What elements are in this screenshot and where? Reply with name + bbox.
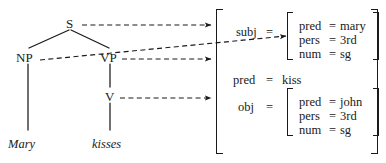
equals-pred: = [266,74,273,87]
subj-pred-value: mary [340,19,366,33]
obj-value-matrix: pred=john pers=3rd num=sg [287,88,379,136]
subj-bracket-right [373,12,379,60]
value-pred-kiss: kiss [282,74,301,87]
subj-row-num: num=sg [299,48,351,61]
subj-row-pers: pers=3rd [299,34,357,47]
attribute-pred: pred [233,74,255,87]
subj-pred-key: pred [299,20,329,33]
f-structure: subj = pred=mary pers=3rd num=sg pred = … [216,9,380,154]
obj-pred-key: pred [299,96,329,109]
equals-obj: = [266,101,273,114]
obj-row-num: num=sg [299,124,351,137]
tree-edges [28,30,110,130]
outer-bracket-left [216,9,223,154]
subj-num-equals: = [329,48,340,61]
equals-subj: = [266,26,273,39]
tree-terminal-kisses: kisses [92,138,121,151]
edge-s-np [29,30,69,48]
subj-value-matrix: pred=mary pers=3rd num=sg [287,12,379,60]
obj-pers-key: pers [299,110,329,123]
obj-num-equals: = [329,124,340,137]
subj-pers-equals: = [329,34,340,47]
obj-bracket-right [373,88,379,136]
subj-pred-equals: = [329,20,340,33]
obj-pers-equals: = [329,110,340,123]
obj-pred-value: john [340,95,362,109]
subj-pers-key: pers [299,34,329,47]
tree-node-vp: VP [100,51,117,64]
obj-row-pers: pers=3rd [299,110,357,123]
subj-num-value: sg [340,47,351,61]
tree-terminal-mary: Mary [8,138,35,151]
subj-pers-value: 3rd [340,33,357,47]
obj-pred-equals: = [329,96,340,109]
obj-bracket-left [287,88,293,136]
attribute-obj: obj [238,101,254,114]
subj-bracket-left [287,12,293,60]
obj-num-value: sg [340,123,351,137]
subj-num-key: num [299,48,329,61]
obj-num-key: num [299,124,329,137]
tree-node-np: NP [16,51,33,64]
tree-node-v: V [105,90,115,103]
tree-node-s: S [66,17,73,30]
attribute-subj: subj [236,26,257,39]
edge-s-vp [71,30,109,48]
subj-row-pred: pred=mary [299,20,366,33]
obj-row-pred: pred=john [299,96,362,109]
obj-pers-value: 3rd [340,109,357,123]
figure-canvas: S NP VP V Mary kisses subj = pred=mary p… [0,0,386,163]
